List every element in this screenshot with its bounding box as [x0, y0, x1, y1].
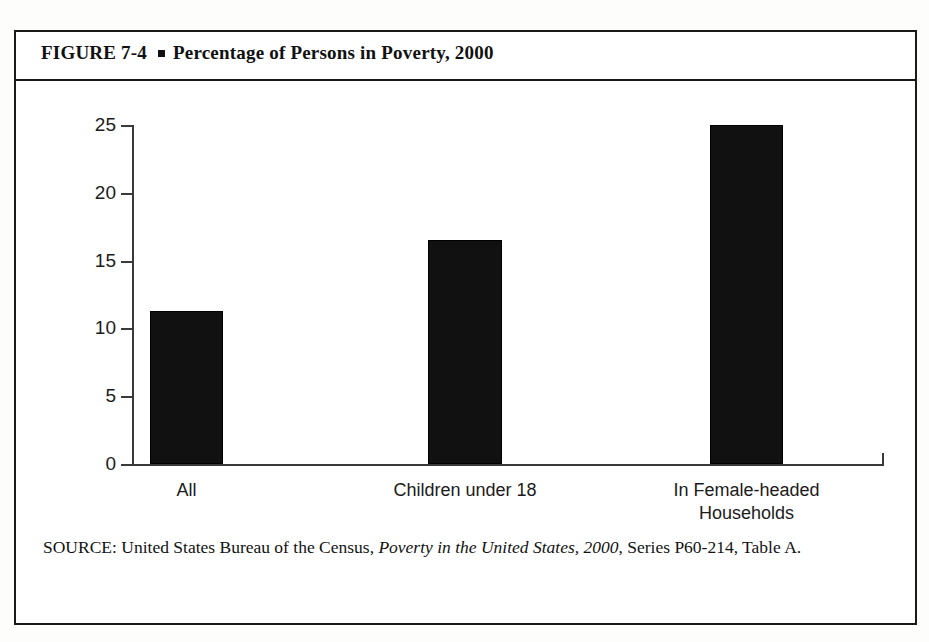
figure-number: FIGURE 7-4: [41, 42, 147, 63]
y-tick-25: [121, 125, 134, 127]
y-axis-tick-label: 15: [70, 251, 116, 270]
y-tick-20: [121, 193, 134, 195]
source-suffix: , Series P60-214, Table A.: [618, 537, 801, 557]
figure-title-text: Percentage of Persons in Poverty, 2000: [173, 42, 494, 63]
source-prefix: SOURCE: United States Bureau of the Cens…: [43, 537, 378, 557]
square-bullet-icon: [158, 50, 165, 57]
y-tick-10: [121, 328, 134, 330]
figure-frame: FIGURE 7-4Percentage of Persons in Pover…: [14, 30, 917, 625]
x-axis-line: [132, 464, 884, 466]
y-tick-0: [121, 464, 134, 466]
figure-header: FIGURE 7-4Percentage of Persons in Pover…: [16, 32, 915, 81]
bar-1: [428, 240, 502, 464]
bar-2: [710, 125, 783, 464]
category-label-2: In Female-headed Households: [637, 479, 857, 524]
y-axis-tick-label: 0: [70, 454, 116, 473]
y-axis-tick-label: 25: [70, 115, 116, 134]
figure-title: FIGURE 7-4Percentage of Persons in Pover…: [41, 42, 494, 64]
category-label-0: All: [77, 479, 297, 502]
y-tick-15: [121, 261, 134, 263]
y-axis-tick-label: 20: [70, 183, 116, 202]
bar-0: [150, 311, 223, 464]
y-axis-tick-label: 10: [70, 318, 116, 337]
source-title-italic: Poverty in the United States, 2000: [378, 537, 618, 557]
x-axis-end-tick: [882, 453, 884, 466]
category-label-1: Children under 18: [355, 479, 575, 502]
y-tick-5: [121, 396, 134, 398]
y-axis-tick-label: 5: [70, 386, 116, 405]
source-note: SOURCE: United States Bureau of the Cens…: [43, 535, 888, 560]
y-axis-line: [132, 125, 134, 465]
